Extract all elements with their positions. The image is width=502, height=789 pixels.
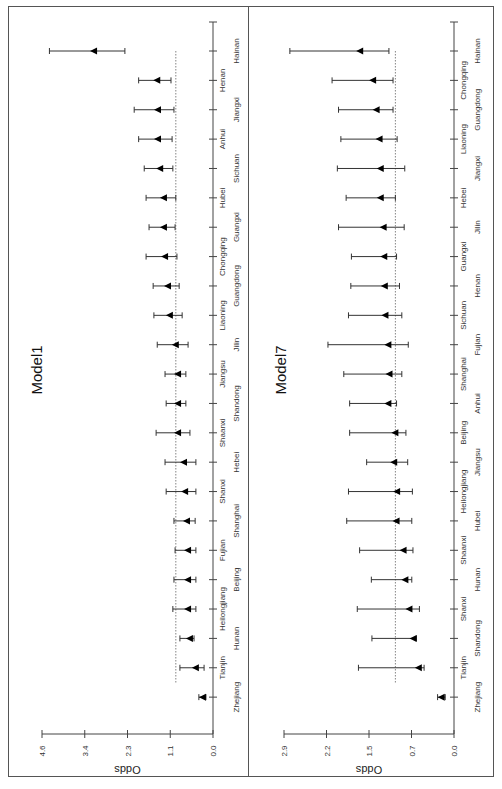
point-estimate-marker bbox=[174, 371, 181, 378]
point-estimate-marker bbox=[400, 547, 407, 554]
point-estimate-marker bbox=[183, 517, 190, 524]
category-label: Zhejiang bbox=[473, 682, 482, 713]
category-label: Beijing bbox=[232, 568, 241, 592]
point-estimate-marker bbox=[381, 312, 388, 319]
category-label: Hebei bbox=[459, 187, 468, 208]
point-estimate-marker bbox=[410, 635, 417, 642]
category-label: Hunan bbox=[473, 568, 482, 592]
category-label: Shanghai bbox=[232, 504, 241, 538]
category-label: Hubei bbox=[218, 187, 227, 208]
category-label: Liaoning bbox=[218, 300, 227, 330]
category-label: Jiangxi bbox=[473, 156, 482, 181]
point-estimate-marker bbox=[160, 194, 167, 201]
point-estimate-marker bbox=[391, 429, 398, 436]
category-label: Guangxi bbox=[459, 241, 468, 271]
category-label: Shaanxi bbox=[459, 536, 468, 565]
point-estimate-marker bbox=[438, 694, 445, 701]
value-tick-label: 0.7 bbox=[408, 745, 417, 757]
category-label: Shanghai bbox=[459, 357, 468, 391]
value-axis-title: Odds bbox=[355, 764, 382, 776]
point-estimate-marker bbox=[390, 459, 397, 466]
point-estimate-marker bbox=[186, 635, 193, 642]
point-estimate-marker bbox=[90, 48, 97, 55]
point-estimate-marker bbox=[393, 517, 400, 524]
category-label: Fujian bbox=[218, 539, 227, 561]
point-estimate-marker bbox=[386, 371, 393, 378]
category-label: Henan bbox=[473, 274, 482, 298]
point-estimate-marker bbox=[377, 194, 384, 201]
value-axis-title: Odds bbox=[114, 764, 141, 776]
value-tick-label: 0.0 bbox=[450, 745, 459, 757]
panel-title: Model1 bbox=[28, 345, 45, 394]
category-label: Henan bbox=[218, 69, 227, 93]
category-label: Jilin bbox=[473, 220, 482, 234]
point-estimate-marker bbox=[154, 106, 161, 113]
category-label: Jiangxi bbox=[232, 97, 241, 122]
category-label: Tianjin bbox=[218, 656, 227, 679]
value-tick-label: 2.9 bbox=[280, 745, 289, 757]
point-estimate-marker bbox=[373, 106, 380, 113]
point-estimate-marker bbox=[380, 224, 387, 231]
value-tick-label: 2.3 bbox=[124, 745, 133, 757]
category-label: Zhejiang bbox=[232, 682, 241, 713]
point-estimate-marker bbox=[174, 400, 181, 407]
point-estimate-marker bbox=[160, 224, 167, 231]
value-tick-label: 1.1 bbox=[166, 745, 175, 757]
point-estimate-marker bbox=[377, 165, 384, 172]
point-estimate-marker bbox=[180, 459, 187, 466]
category-label: Chongqing bbox=[459, 61, 468, 100]
category-label: Sichuan bbox=[232, 154, 241, 183]
point-estimate-marker bbox=[199, 694, 206, 701]
point-estimate-marker bbox=[161, 253, 168, 260]
point-estimate-marker bbox=[172, 341, 179, 348]
point-estimate-marker bbox=[164, 282, 171, 289]
point-estimate-marker bbox=[153, 77, 160, 84]
category-label: Jiangsu bbox=[473, 448, 482, 476]
value-tick-label: 3.4 bbox=[81, 745, 90, 757]
point-estimate-marker bbox=[380, 253, 387, 260]
category-label: Guangxi bbox=[232, 212, 241, 242]
category-label: Beijing bbox=[459, 421, 468, 445]
category-label: Chongqing bbox=[218, 237, 227, 276]
forest-plot-canvas: 0.01.12.33.44.6OddsHainanHenanJiangxiAnh… bbox=[0, 0, 502, 789]
point-estimate-marker bbox=[184, 606, 191, 613]
point-estimate-marker bbox=[384, 341, 391, 348]
category-label: Sichuan bbox=[459, 301, 468, 330]
category-label: Shandong bbox=[473, 620, 482, 656]
category-label: Tianjin bbox=[459, 656, 468, 679]
point-estimate-marker bbox=[166, 312, 173, 319]
category-label: Heilongjiang bbox=[218, 587, 227, 631]
point-estimate-marker bbox=[184, 547, 191, 554]
point-estimate-marker bbox=[376, 136, 383, 143]
point-estimate-marker bbox=[369, 77, 376, 84]
point-estimate-marker bbox=[184, 576, 191, 583]
point-estimate-marker bbox=[174, 429, 181, 436]
point-estimate-marker bbox=[415, 664, 422, 671]
value-tick-label: 2.2 bbox=[323, 745, 332, 757]
panel-model7: 0.00.71.52.22.9OddsHainanChongqingGuangd… bbox=[272, 22, 482, 776]
category-label: Hubei bbox=[473, 510, 482, 531]
category-label: Guangdong bbox=[473, 89, 482, 131]
category-label: Anhui bbox=[218, 129, 227, 150]
category-label: Shandong bbox=[232, 385, 241, 421]
category-label: Anhui bbox=[473, 393, 482, 414]
category-label: Liaoning bbox=[459, 124, 468, 154]
point-estimate-marker bbox=[405, 606, 412, 613]
point-estimate-marker bbox=[381, 282, 388, 289]
point-estimate-marker bbox=[401, 576, 408, 583]
category-label: Heilongjiang bbox=[459, 470, 468, 514]
point-estimate-marker bbox=[181, 488, 188, 495]
category-label: Hebei bbox=[232, 452, 241, 473]
value-tick-label: 4.6 bbox=[38, 745, 47, 757]
category-label: Shanxi bbox=[218, 479, 227, 504]
category-label: Jilin bbox=[232, 338, 241, 352]
category-label: Hainan bbox=[473, 38, 482, 63]
category-label: Shaanxi bbox=[218, 418, 227, 447]
category-label: Fujian bbox=[473, 334, 482, 356]
category-label: Jiangsu bbox=[218, 360, 227, 388]
category-label: Shanxi bbox=[459, 597, 468, 622]
category-label: Guangdong bbox=[232, 265, 241, 307]
value-tick-label: 1.5 bbox=[365, 745, 374, 757]
value-tick-label: 0.0 bbox=[209, 745, 218, 757]
point-estimate-marker bbox=[356, 48, 363, 55]
